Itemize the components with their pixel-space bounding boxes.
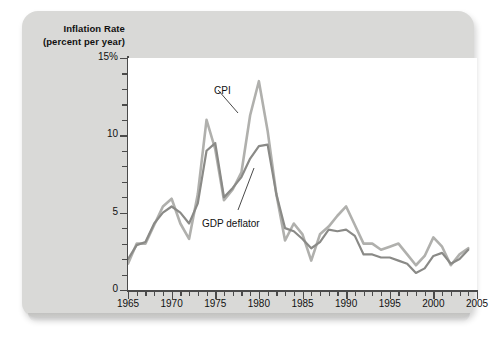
- leader-line-gdp-deflator: [238, 168, 254, 210]
- x-tick-minor: [372, 291, 373, 296]
- x-tick-minor: [364, 291, 365, 296]
- x-tick-minor: [460, 291, 461, 296]
- y-tick-label-text: 10: [107, 128, 118, 139]
- y-tick-label-text: 0: [112, 283, 118, 294]
- y-tick-major: [120, 135, 128, 136]
- x-tick-label: 1995: [379, 298, 401, 309]
- x-tick-minor: [407, 291, 408, 296]
- annotation-leader-lines: [128, 58, 477, 290]
- x-tick-minor: [381, 291, 382, 296]
- x-tick-minor: [442, 291, 443, 296]
- x-tick-minor: [268, 291, 269, 296]
- x-tick-minor: [198, 291, 199, 296]
- x-tick-minor: [250, 291, 251, 296]
- x-tick-minor: [329, 291, 330, 296]
- x-tick-minor: [207, 291, 208, 296]
- y-tick-major: [120, 290, 128, 291]
- annotation-cpi: CPI: [214, 85, 231, 96]
- x-tick-minor: [468, 291, 469, 296]
- x-tick-label: 1985: [291, 298, 313, 309]
- x-tick-minor: [180, 291, 181, 296]
- x-tick-minor: [337, 291, 338, 296]
- x-tick-minor: [163, 291, 164, 296]
- y-tick-label-text: 15%: [98, 51, 118, 62]
- x-tick-minor: [154, 291, 155, 296]
- x-tick-minor: [416, 291, 417, 296]
- y-tick-major: [120, 58, 128, 59]
- x-tick-label: 2000: [422, 298, 444, 309]
- annotation-gdp-deflator: GDP deflator: [202, 218, 260, 229]
- x-tick-minor: [355, 291, 356, 296]
- x-tick-minor: [451, 291, 452, 296]
- y-tick-label-text: 5: [112, 206, 118, 217]
- x-tick-label: 1970: [161, 298, 183, 309]
- x-tick-label: 1990: [335, 298, 357, 309]
- x-tick-label: 1980: [248, 298, 270, 309]
- x-tick-label: 2005: [466, 298, 488, 309]
- x-tick-minor: [137, 291, 138, 296]
- x-tick-minor: [145, 291, 146, 296]
- y-axis-title-line1: Inflation Rate: [30, 23, 125, 35]
- x-tick-label: 1965: [117, 298, 139, 309]
- x-tick-minor: [276, 291, 277, 296]
- x-tick-minor: [311, 291, 312, 296]
- x-tick-minor: [398, 291, 399, 296]
- y-axis-title-line2: (percent per year): [18, 36, 125, 48]
- x-tick-minor: [425, 291, 426, 296]
- x-tick-minor: [224, 291, 225, 296]
- x-tick-label: 1975: [204, 298, 226, 309]
- x-tick-minor: [189, 291, 190, 296]
- x-tick-minor: [233, 291, 234, 296]
- x-tick-minor: [294, 291, 295, 296]
- figure-root: Inflation Rate (percent per year) 051015…: [0, 0, 495, 342]
- x-tick-minor: [320, 291, 321, 296]
- x-tick-minor: [285, 291, 286, 296]
- x-tick-minor: [241, 291, 242, 296]
- y-tick-major: [120, 213, 128, 214]
